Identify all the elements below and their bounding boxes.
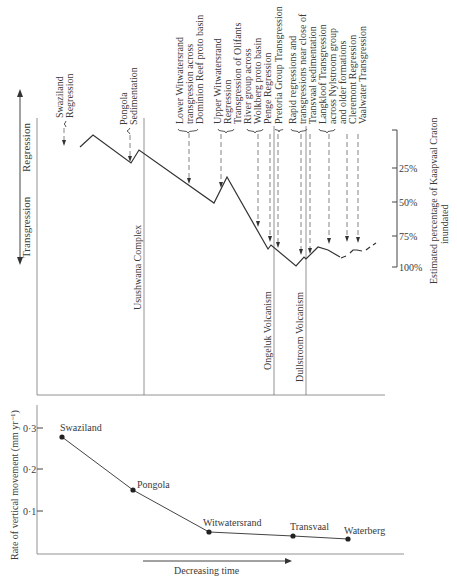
brace-lower-witwatersrand: [178, 129, 198, 133]
transgression-label: Transgression: [20, 196, 32, 258]
arrow-down-icon: [299, 249, 303, 255]
event-label-vaalwater: Vaalwater Transgression: [357, 26, 368, 124]
label-swaziland: Swaziland: [60, 422, 102, 433]
figure-canvas: Regression Transgression Swaziland Regre…: [0, 0, 457, 581]
event-label-lower-witwatersrand: Lower Witwatersrand transgression across…: [174, 15, 205, 124]
brace-pongola: [127, 128, 130, 134]
event-label-langkloof: Langkloof Transgression across Nylstroom…: [317, 22, 348, 124]
direction-arrow: Regression Transgression: [17, 89, 32, 265]
regression-label: Regression: [20, 123, 32, 172]
event-label-upper-witwatersrand: Upper Witwatersrand Regression: [212, 36, 233, 124]
event-label-rapid-regressions: Rapid regressions and transgressions nea…: [287, 11, 318, 124]
tick-50: 50%: [399, 197, 417, 208]
point-pongola: [130, 487, 135, 492]
event-pointer-arrows: [62, 128, 360, 255]
point-witwatersrand: [206, 529, 211, 534]
y-axis-title: Rate of vertical movement (mm yr⁻¹): [9, 410, 21, 560]
arrow-down-icon: [187, 178, 191, 184]
label-waterberg: Waterberg: [344, 525, 385, 536]
event-labels: Swaziland Regression Pongola Sedimentati…: [54, 6, 368, 125]
tick-25: 25%: [399, 163, 417, 174]
label-pongola: Pongola: [137, 479, 170, 490]
x-axis-title: Decreasing time: [174, 565, 240, 576]
brace-pretoria: [275, 129, 283, 132]
arrow-right-icon: [285, 558, 292, 564]
arrow-down-icon: [268, 236, 272, 242]
event-label-pretoria: Pretoria Group Transgression: [273, 6, 284, 124]
tick-100: 100%: [399, 262, 422, 273]
right-axis-title: Estimated percentage of Kaapvaal Craton …: [428, 115, 450, 284]
arrow-down-icon: [256, 221, 260, 227]
point-swaziland: [59, 434, 64, 439]
bottom-chart: 0·3 0·2 0·1 Rate of vertical movement (m…: [9, 405, 404, 576]
y-tick-0.2: 0·2: [23, 464, 36, 475]
arrow-down-icon: [276, 242, 280, 248]
brace-upper-witwatersrand: [218, 129, 234, 133]
inundation-curve-dashed: [341, 243, 376, 258]
top-panel: Regression Transgression Swaziland Regre…: [17, 6, 450, 395]
tick-75: 75%: [399, 231, 417, 242]
brace-swaziland: [64, 121, 66, 127]
right-axis: 25% 50% 75% 100% Estimated percentage of…: [392, 115, 450, 284]
label-witwatersrand: Witwatersrand: [203, 517, 261, 528]
usushwana-label: Usushwana Complex: [132, 225, 143, 310]
arrow-up-icon: [17, 89, 23, 97]
y-tick-0.1: 0·1: [23, 506, 36, 517]
point-waterberg: [345, 536, 350, 541]
event-label-pongola: Pongola Sedimentation: [118, 67, 139, 125]
vertical-markers: Usushwana Complex Ongeluk Volcanism Dull…: [132, 118, 306, 395]
brace-olifants: [247, 129, 263, 133]
brace-rapid: [291, 129, 307, 133]
event-label-penge: Penge Regression: [262, 53, 273, 124]
label-transvaal: Transvaal: [290, 521, 329, 532]
brace-langkloof: [319, 129, 335, 133]
point-transvaal: [290, 533, 295, 538]
ongeluk-label: Ongeluk Volcanism: [262, 291, 273, 370]
arrow-down-icon: [62, 140, 66, 146]
arrow-down-icon: [345, 236, 349, 242]
dullstroom-label: Dullstroom Volcanism: [294, 292, 305, 382]
arrow-down-icon: [327, 238, 331, 244]
arrow-down-icon: [356, 237, 360, 243]
y-tick-0.3: 0·3: [23, 423, 36, 434]
event-label-olifants: Transgression of Olifants River group ac…: [232, 20, 263, 124]
event-label-swaziland: Swaziland Regression: [54, 74, 75, 118]
